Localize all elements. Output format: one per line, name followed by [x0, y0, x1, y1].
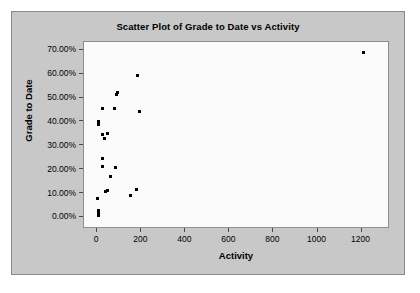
x-axis-tick-label: 600	[221, 234, 235, 244]
x-axis-tick-mark	[272, 228, 273, 232]
x-axis-tick-mark	[140, 228, 141, 232]
plot-area	[83, 41, 389, 228]
data-point	[136, 74, 139, 77]
x-axis-title: Activity	[83, 250, 389, 261]
x-axis-tick-mark	[184, 228, 185, 232]
data-point	[129, 194, 132, 197]
data-point	[101, 107, 104, 110]
data-point	[113, 107, 116, 110]
data-point	[97, 120, 100, 123]
data-point	[135, 188, 138, 191]
data-point	[109, 175, 112, 178]
data-point	[106, 189, 109, 192]
data-point	[97, 209, 100, 212]
chart-title: Scatter Plot of Grade to Date vs Activit…	[12, 21, 404, 32]
x-axis-tick-mark	[228, 228, 229, 232]
x-axis-tick-label: 0	[94, 234, 99, 244]
chart-panel: Scatter Plot of Grade to Date vs Activit…	[11, 11, 405, 275]
data-point	[106, 132, 109, 135]
data-point	[116, 91, 119, 94]
y-axis-tick-marks	[12, 41, 87, 228]
data-point	[114, 166, 117, 169]
data-point	[96, 197, 99, 200]
data-point	[103, 137, 106, 140]
x-axis-tick-label: 800	[265, 234, 279, 244]
data-point	[101, 157, 104, 160]
data-point	[138, 110, 141, 113]
data-point	[101, 133, 104, 136]
x-axis-tick-label: 400	[177, 234, 191, 244]
x-axis-tick-label: 1200	[351, 234, 370, 244]
x-axis-tick-mark	[317, 228, 318, 232]
x-axis-ticks: 020040060080010001200	[83, 228, 389, 252]
data-point	[362, 51, 365, 54]
data-point	[101, 165, 104, 168]
x-axis-tick-mark	[96, 228, 97, 232]
x-axis-tick-label: 200	[133, 234, 147, 244]
x-axis-tick-label: 1000	[307, 234, 326, 244]
x-axis-tick-mark	[361, 228, 362, 232]
